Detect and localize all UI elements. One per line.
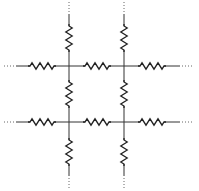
resistors: [28, 24, 166, 166]
resistor-grid-diagram: [0, 0, 199, 191]
wires: [16, 14, 180, 176]
continuation-marks: [4, 2, 193, 189]
